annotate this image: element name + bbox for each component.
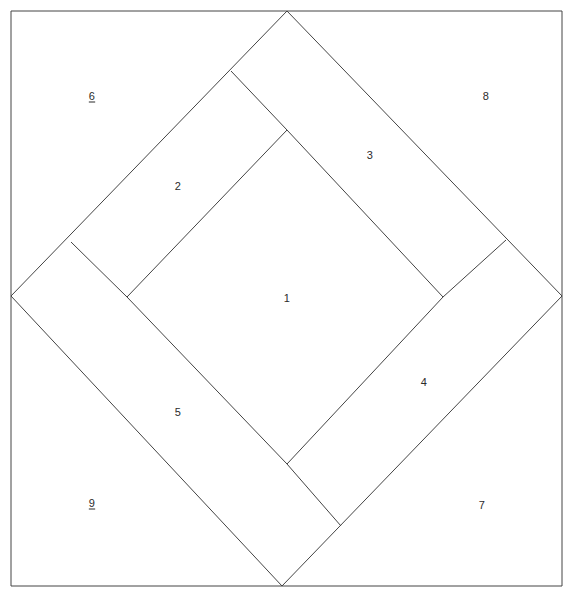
region-label-1: 1 (284, 293, 290, 304)
region-label-6: 6 (89, 91, 95, 102)
band-line-upper-left-outer (71, 242, 127, 297)
band-line-upper-left (231, 71, 287, 130)
region-label-9: 9 (89, 498, 95, 509)
band-line-lower-right (287, 464, 341, 526)
region-label-4: 4 (421, 377, 427, 388)
region-label-7: 7 (479, 500, 485, 511)
band-line-upper-right (443, 240, 506, 297)
geometric-diagram-canvas: 1 2 3 4 5 6 7 8 9 (0, 0, 574, 599)
region-label-3: 3 (367, 150, 373, 161)
region-label-5: 5 (175, 407, 181, 418)
region-label-8: 8 (483, 91, 489, 102)
region-label-2: 2 (175, 181, 181, 192)
